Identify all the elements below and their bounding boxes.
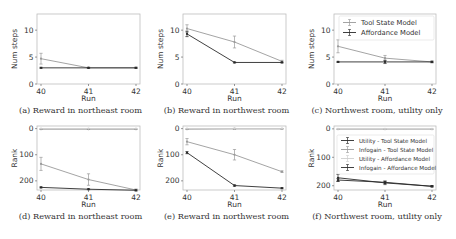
data-point [233, 128, 235, 130]
series-line [185, 25, 283, 63]
data-point [281, 187, 283, 189]
y-tick-label: 0 [326, 124, 331, 133]
data-point [40, 67, 42, 69]
data-point [40, 163, 42, 165]
data-point [281, 128, 283, 130]
x-tick-label: 42 [277, 193, 287, 202]
y-tick-label: 200 [19, 176, 34, 185]
x-axis-label: Run [227, 200, 242, 209]
x-tick-label: 42 [427, 87, 437, 96]
data-point [384, 128, 386, 130]
legend-label: Utility - Affordance Model [359, 156, 430, 163]
data-point [337, 45, 339, 47]
y-tick-label: 5 [175, 53, 180, 62]
series-line [337, 128, 433, 130]
data-point [431, 128, 433, 130]
data-point [186, 141, 188, 143]
subfigure-caption: (d) Reward in northeast room [19, 211, 143, 221]
chart-d: 0100200404142RunRank(d) Reward in northe… [10, 124, 142, 221]
y-tick-label: 200 [316, 181, 331, 190]
y-tick-label: 100 [165, 150, 180, 159]
data-point [40, 186, 42, 188]
legend-label: Infogain - Tool State Model [359, 147, 434, 154]
data-point [384, 181, 386, 183]
data-point [135, 128, 137, 130]
figure: 0510404142RunNum steps(a) Reward in nort… [0, 0, 456, 239]
data-point [431, 185, 433, 187]
data-point [233, 154, 235, 156]
y-tick-label: 0 [175, 80, 180, 89]
series-line [336, 179, 433, 188]
y-tick-label: 0 [29, 124, 34, 133]
x-tick-label: 40 [182, 193, 192, 202]
data-point [337, 128, 339, 130]
y-tick-label: 100 [19, 150, 34, 159]
y-tick-label: 10 [170, 26, 180, 35]
data-point [337, 179, 339, 181]
data-point [40, 58, 42, 60]
y-axis-label: Num steps [307, 29, 316, 69]
y-tick-label: 0 [29, 80, 34, 89]
legend-f: Utility - Tool State ModelInfogain - Too… [337, 135, 437, 174]
x-axis-label: Run [378, 200, 393, 209]
subfigure-caption: (c) Northwest room, utility only [311, 105, 443, 115]
series-line [336, 40, 433, 63]
x-axis-label: Run [227, 94, 242, 103]
y-axis-label: Num steps [10, 29, 19, 69]
subfigure-caption: (a) Reward in northeast room [19, 105, 142, 115]
x-tick-label: 40 [333, 87, 343, 96]
subfigure-caption: (f) Northwest room, utility only [312, 211, 442, 221]
x-tick-label: 40 [182, 87, 192, 96]
y-tick-label: 10 [24, 26, 34, 35]
y-tick-label: 10 [321, 26, 331, 35]
x-tick-label: 42 [131, 193, 141, 202]
y-tick-label: 5 [29, 53, 34, 62]
y-axis-label: Rank [307, 148, 316, 167]
data-point [87, 178, 89, 180]
legend-label: Tool State Model [360, 19, 417, 27]
y-axis-label: Rank [156, 148, 165, 167]
data-point [233, 61, 235, 63]
data-point [186, 33, 188, 35]
chart-b: 0510404142RunNum steps(b) Reward in nort… [156, 14, 290, 115]
plot-frame [183, 14, 286, 84]
data-point [186, 27, 188, 29]
data-point [40, 128, 42, 130]
legend-label: Affordance Model [361, 29, 421, 37]
data-point [233, 41, 235, 43]
legend-label: Infogain - Affordance Model [359, 165, 437, 172]
data-point [186, 152, 188, 154]
data-point [281, 61, 283, 63]
x-tick-label: 40 [36, 193, 46, 202]
data-point [87, 67, 89, 69]
data-point [186, 128, 188, 130]
series-line [39, 67, 137, 69]
x-axis-label: Run [81, 200, 96, 209]
data-point [135, 67, 137, 69]
legend-c: Tool State ModelAffordance Model [339, 16, 434, 40]
x-tick-label: 42 [131, 87, 141, 96]
y-tick-label: 0 [175, 124, 180, 133]
data-point [384, 57, 386, 59]
chart-a: 0510404142RunNum steps(a) Reward in nort… [10, 14, 142, 115]
x-tick-label: 40 [333, 193, 343, 202]
data-point [384, 61, 386, 63]
x-tick-label: 40 [36, 87, 46, 96]
y-axis-label: Num steps [156, 29, 165, 69]
plot-frame [37, 14, 140, 84]
data-point [281, 171, 283, 173]
series-line [185, 139, 283, 173]
x-axis-label: Run [378, 94, 393, 103]
series-line [39, 157, 137, 191]
data-point [233, 184, 235, 186]
chart-e: 0100200404142RunRank(e) Reward in northw… [156, 124, 289, 221]
legend-label: Utility - Tool State Model [359, 138, 427, 145]
data-point [135, 189, 137, 191]
x-tick-label: 42 [427, 193, 437, 202]
x-axis-label: Run [81, 94, 96, 103]
subfigure-caption: (b) Reward in northwest room [164, 105, 290, 115]
y-axis-label: Rank [10, 148, 19, 167]
data-point [87, 188, 89, 190]
subfigure-caption: (e) Reward in northwest room [164, 211, 289, 221]
data-point [87, 128, 89, 130]
